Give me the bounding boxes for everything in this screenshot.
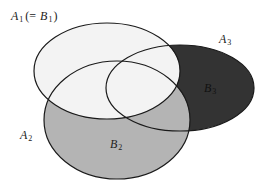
label-a1: A1(= B1) [10, 9, 57, 24]
label-a3: A3 [218, 32, 231, 47]
venn-diagram: A1(= B1) A2 A3 B2 B3 [0, 0, 270, 186]
label-a2: A2 [19, 128, 32, 143]
